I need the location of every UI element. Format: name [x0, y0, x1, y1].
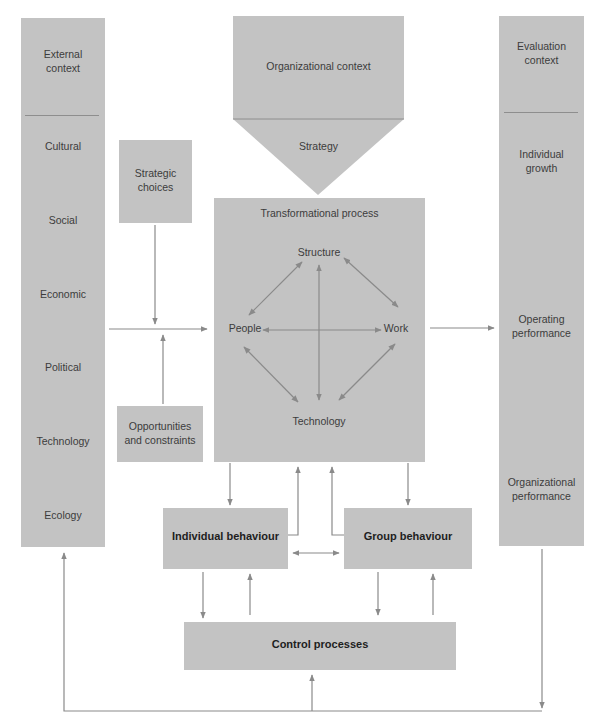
node-people: People — [220, 322, 270, 336]
transformational-process-title: Transformational process — [214, 207, 425, 221]
individual-behaviour-label: Individual behaviour — [163, 530, 288, 544]
external-item-ecology: Ecology — [21, 509, 105, 523]
evaluation-context-title: Evaluation context — [499, 40, 584, 67]
organizational-context-label: Organizational context — [233, 60, 404, 74]
control-processes-label: Control processes — [184, 638, 456, 652]
external-context-column — [21, 18, 105, 547]
external-context-title: External context — [21, 48, 105, 75]
node-technology: Technology — [279, 415, 359, 429]
evaluation-item-organizational-performance: Organizational performance — [499, 476, 584, 503]
strategy-label: Strategy — [233, 140, 404, 154]
opportunities-constraints-label: Opportunities and constraints — [117, 420, 203, 447]
external-item-social: Social — [21, 214, 105, 228]
strategic-choices-label: Strategic choices — [119, 167, 192, 194]
external-item-cultural: Cultural — [21, 140, 105, 154]
evaluation-context-divider — [504, 112, 578, 113]
group-behaviour-label: Group behaviour — [344, 530, 472, 544]
node-structure: Structure — [279, 246, 359, 260]
external-context-divider — [25, 115, 99, 116]
external-item-political: Political — [21, 361, 105, 375]
node-work: Work — [376, 322, 416, 336]
evaluation-item-operating-performance: Operating performance — [499, 313, 584, 340]
evaluation-context-column — [499, 16, 584, 546]
external-item-technology: Technology — [21, 435, 105, 449]
external-item-economic: Economic — [21, 288, 105, 302]
evaluation-item-individual-growth: Individual growth — [499, 148, 584, 175]
